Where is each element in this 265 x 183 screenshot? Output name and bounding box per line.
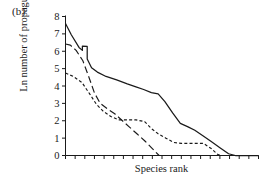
y-tick-label: 2 bbox=[54, 115, 59, 126]
y-tick-label: 0 bbox=[54, 150, 59, 161]
figure-panel-b: (b) Ln number of propagules Species rank… bbox=[0, 0, 265, 183]
y-tick-label: 4 bbox=[54, 81, 60, 92]
y-tick-label: 7 bbox=[54, 28, 59, 39]
y-tick-label: 3 bbox=[54, 98, 59, 109]
y-tick-label: 1 bbox=[54, 133, 59, 144]
y-tick-label: 5 bbox=[54, 63, 59, 74]
series-line-long-dashed bbox=[66, 44, 259, 156]
series-line-short-dashed bbox=[66, 73, 259, 156]
chart-plot-area: 012345678 bbox=[0, 0, 265, 183]
y-tick-label: 6 bbox=[54, 46, 59, 57]
y-tick-label: 8 bbox=[54, 11, 59, 22]
